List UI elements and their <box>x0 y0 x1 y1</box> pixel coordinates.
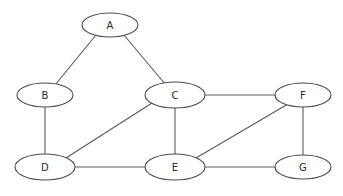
node-e[interactable]: E <box>145 154 205 180</box>
node-g[interactable]: G <box>275 155 331 179</box>
node-c-label: C <box>171 90 178 101</box>
node-f-label: F <box>300 90 306 101</box>
graph-diagram-canvas: ABCFDEG <box>0 0 343 196</box>
graph-svg: ABCFDEG <box>0 0 343 196</box>
edge-e-f <box>196 104 288 158</box>
node-f[interactable]: F <box>275 83 331 107</box>
edge-a-c <box>124 35 165 84</box>
edge-a-b <box>55 35 96 85</box>
node-d[interactable]: D <box>15 154 75 180</box>
node-d-label: D <box>41 162 49 173</box>
node-e-label: E <box>172 162 179 173</box>
node-b[interactable]: B <box>17 83 73 107</box>
nodes-layer: ABCFDEG <box>15 13 331 180</box>
edge-c-d <box>66 103 152 158</box>
node-c[interactable]: C <box>145 82 205 108</box>
node-a-label: A <box>106 20 113 31</box>
node-b-label: B <box>41 90 48 101</box>
node-a[interactable]: A <box>82 13 138 37</box>
node-g-label: G <box>299 162 307 173</box>
